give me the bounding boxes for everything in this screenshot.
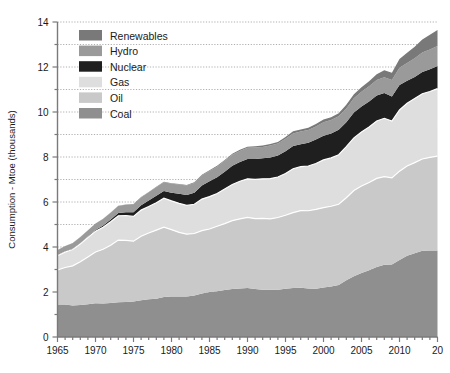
y-tick-label: 4 [43, 242, 49, 253]
x-tick-label: 1975 [122, 345, 145, 356]
y-tick-label: 6 [43, 197, 49, 208]
y-tick-label: 12 [37, 62, 49, 73]
legend-swatch-nuclear [79, 61, 102, 71]
legend-swatch-oil [79, 92, 102, 103]
y-tick-label: 2 [43, 287, 49, 298]
y-tick-label: 0 [43, 332, 49, 343]
x-tick-label: 1965 [46, 345, 69, 356]
legend-label-oil: Oil [110, 92, 123, 104]
x-tick-label: 1980 [160, 345, 183, 356]
chart-container: 0246810121419651970197519801985199019952… [0, 0, 450, 373]
legend-label-coal: Coal [110, 108, 132, 120]
x-tick-label: 2010 [388, 345, 411, 356]
x-tick-label: 2005 [350, 345, 373, 356]
y-tick-label: 10 [37, 107, 49, 118]
x-tick-label: 2000 [312, 345, 335, 356]
legend-swatch-hydro [79, 46, 102, 57]
legend: RenewablesHydroNuclearGasOilCoal [79, 30, 168, 120]
legend-label-nuclear: Nuclear [110, 61, 147, 73]
legend-swatch-coal [79, 108, 102, 119]
legend-swatch-gas [79, 77, 102, 88]
legend-swatch-renewables [79, 30, 102, 41]
x-tick-label: 1990 [236, 345, 259, 356]
x-tick-label: 20 [432, 345, 444, 356]
energy-consumption-area-chart: 0246810121419651970197519801985199019952… [0, 0, 450, 373]
x-tick-label: 1995 [274, 345, 297, 356]
legend-label-hydro: Hydro [110, 45, 138, 57]
legend-label-gas: Gas [110, 76, 129, 88]
y-tick-label: 14 [37, 17, 49, 28]
legend-label-renewables: Renewables [110, 30, 168, 42]
x-tick-label: 1985 [198, 345, 221, 356]
x-tick-label: 1970 [84, 345, 107, 356]
y-axis-title: Consumption - Mtoe (thousands) [6, 110, 17, 248]
y-tick-label: 8 [43, 152, 49, 163]
